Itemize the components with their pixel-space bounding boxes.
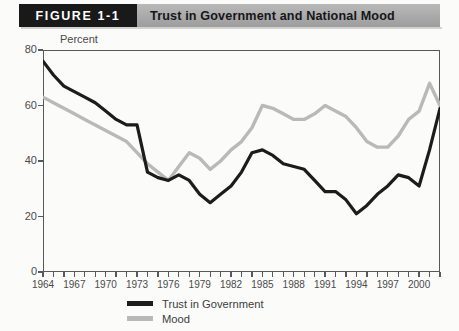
- y-axis-tick-label: 20: [11, 210, 37, 222]
- x-axis-tick-mark: [84, 272, 85, 277]
- y-axis-tick-label: 0: [11, 265, 37, 277]
- figure-header: FIGURE 1-1 Trust in Government and Natio…: [19, 4, 440, 27]
- x-axis-tick-mark: [314, 272, 315, 277]
- x-axis-tick-label: 1997: [377, 279, 399, 290]
- legend-swatch-icon: [127, 316, 153, 321]
- x-axis-tick-mark: [251, 272, 252, 277]
- x-axis-tick-label: 1973: [126, 279, 148, 290]
- chart-legend: Trust in GovernmentMood: [127, 296, 264, 326]
- x-axis-tick-mark: [168, 272, 169, 277]
- legend-item: Trust in Government: [127, 296, 264, 311]
- legend-label: Trust in Government: [162, 298, 264, 310]
- x-axis-tick-mark: [63, 272, 64, 277]
- x-axis-tick-mark: [418, 272, 419, 277]
- x-axis-tick-mark: [136, 272, 137, 277]
- x-axis-tick-mark: [439, 272, 440, 277]
- x-axis-tick-mark: [220, 272, 221, 277]
- x-axis-tick-mark: [408, 272, 409, 277]
- y-axis-tick-label: 40: [11, 154, 37, 166]
- x-axis-tick-label: 1994: [345, 279, 367, 290]
- x-axis-tick-mark: [95, 272, 96, 277]
- x-axis-tick-mark: [293, 272, 294, 277]
- series-line-trust-in-government: [43, 61, 440, 214]
- x-axis-tick-mark: [304, 272, 305, 277]
- series-line-mood: [43, 83, 440, 180]
- figure-number-tag: FIGURE 1-1: [19, 4, 137, 27]
- x-axis-tick-label: 1982: [220, 279, 242, 290]
- y-axis-tick-label: 60: [11, 99, 37, 111]
- x-axis-tick-mark: [345, 272, 346, 277]
- legend-label: Mood: [162, 313, 190, 325]
- plot-area: [43, 50, 440, 272]
- x-axis-tick-mark: [115, 272, 116, 277]
- x-axis-tick-label: 1970: [95, 279, 117, 290]
- x-axis-tick-mark: [262, 272, 263, 277]
- legend-swatch-icon: [127, 301, 153, 306]
- x-axis-tick-mark: [398, 272, 399, 277]
- x-axis-tick-mark: [324, 272, 325, 277]
- y-axis-title: Percent: [60, 33, 98, 45]
- x-axis-tick-label: 1985: [251, 279, 273, 290]
- x-axis-tick-mark: [105, 272, 106, 277]
- x-axis-tick-mark: [210, 272, 211, 277]
- header-shadow: [21, 27, 442, 29]
- chart-lines: [43, 50, 440, 272]
- x-axis-tick-label: 1976: [157, 279, 179, 290]
- x-axis-tick-label: 1991: [314, 279, 336, 290]
- x-axis-tick-mark: [283, 272, 284, 277]
- x-axis-tick-mark: [387, 272, 388, 277]
- x-axis-tick-mark: [429, 272, 430, 277]
- x-axis-tick-mark: [157, 272, 158, 277]
- x-axis-tick-mark: [42, 272, 43, 277]
- x-axis-tick-mark: [178, 272, 179, 277]
- x-axis-tick-label: 1979: [189, 279, 211, 290]
- x-axis-tick-mark: [147, 272, 148, 277]
- figure-container: FIGURE 1-1 Trust in Government and Natio…: [0, 0, 459, 331]
- y-axis-tick-label: 80: [11, 43, 37, 55]
- x-axis-tick-mark: [199, 272, 200, 277]
- x-axis-tick-mark: [241, 272, 242, 277]
- x-axis-tick-label: 2000: [408, 279, 430, 290]
- legend-item: Mood: [127, 311, 264, 326]
- x-axis-tick-label: 1964: [32, 279, 54, 290]
- x-axis-tick-mark: [272, 272, 273, 277]
- x-axis-tick-mark: [335, 272, 336, 277]
- x-axis-tick-mark: [356, 272, 357, 277]
- x-axis-tick-mark: [230, 272, 231, 277]
- x-axis-tick-mark: [126, 272, 127, 277]
- x-axis-tick-mark: [53, 272, 54, 277]
- x-axis-tick-mark: [377, 272, 378, 277]
- x-axis-tick-mark: [189, 272, 190, 277]
- x-axis-tick-label: 1988: [283, 279, 305, 290]
- x-axis-tick-mark: [74, 272, 75, 277]
- figure-title: Trust in Government and National Mood: [137, 4, 440, 27]
- x-axis-tick-mark: [366, 272, 367, 277]
- x-axis-tick-label: 1967: [63, 279, 85, 290]
